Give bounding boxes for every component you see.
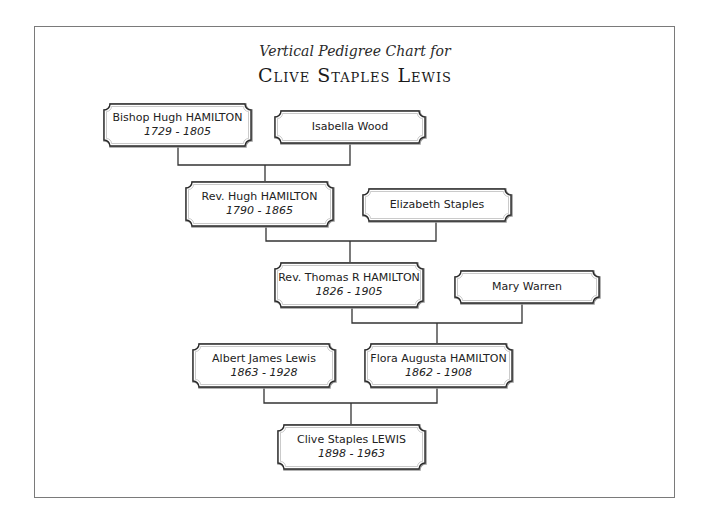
person-name: Isabella Wood [312,120,389,134]
person-name: Bishop Hugh HAMILTON [113,111,243,125]
connector-line [264,388,437,403]
person-box-rev-thomas-r-hamilton[interactable]: Rev. Thomas R HAMILTON1826 - 1905 [274,262,424,308]
person-box-clive-staples-lewis[interactable]: Clive Staples LEWIS1898 - 1963 [277,424,426,470]
person-dates: 1863 - 1928 [231,366,298,380]
person-name: Mary Warren [492,280,562,294]
person-dates: 1790 - 1865 [226,204,293,218]
person-box-bishop-hugh-hamilton[interactable]: Bishop Hugh HAMILTON1729 - 1805 [103,103,252,147]
person-dates: 1862 - 1908 [405,366,472,380]
person-text: Albert James Lewis1863 - 1928 [192,343,336,388]
person-dates: 1826 - 1905 [316,285,383,299]
person-text: Mary Warren [454,270,600,304]
person-text: Rev. Hugh HAMILTON1790 - 1865 [185,181,334,227]
person-dates: 1729 - 1805 [144,125,211,139]
person-name: Elizabeth Staples [390,198,485,212]
person-text: Rev. Thomas R HAMILTON1826 - 1905 [274,262,424,308]
person-box-isabella-wood[interactable]: Isabella Wood [274,110,426,144]
person-box-elizabeth-staples[interactable]: Elizabeth Staples [362,188,512,222]
person-name: Flora Augusta HAMILTON [370,352,506,366]
person-text: Elizabeth Staples [362,188,512,222]
person-box-flora-augusta-hamilton[interactable]: Flora Augusta HAMILTON1862 - 1908 [364,343,513,388]
person-text: Flora Augusta HAMILTON1862 - 1908 [364,343,513,388]
person-name: Rev. Thomas R HAMILTON [278,271,420,285]
person-dates: 1898 - 1963 [318,447,385,461]
person-text: Isabella Wood [274,110,426,144]
person-name: Clive Staples LEWIS [297,433,406,447]
person-text: Clive Staples LEWIS1898 - 1963 [277,424,426,470]
person-name: Rev. Hugh HAMILTON [201,190,317,204]
person-box-rev-hugh-hamilton[interactable]: Rev. Hugh HAMILTON1790 - 1865 [185,181,334,227]
person-name: Albert James Lewis [212,352,316,366]
person-text: Bishop Hugh HAMILTON1729 - 1805 [103,103,252,147]
person-box-albert-james-lewis[interactable]: Albert James Lewis1863 - 1928 [192,343,336,388]
person-box-mary-warren[interactable]: Mary Warren [454,270,600,304]
